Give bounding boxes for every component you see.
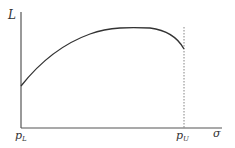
p-upper-base: p bbox=[176, 129, 183, 142]
p-lower-sub: L bbox=[22, 135, 27, 143]
y-axis-label: L bbox=[8, 9, 16, 21]
p-upper-label: pU bbox=[176, 130, 189, 143]
p-lower-label: pL bbox=[15, 130, 27, 143]
p-upper-sub: U bbox=[183, 135, 189, 143]
l-curve bbox=[21, 28, 184, 86]
x-axis-label: σ bbox=[213, 128, 221, 139]
p-lower-base: p bbox=[15, 129, 22, 142]
chart-canvas bbox=[0, 0, 235, 148]
